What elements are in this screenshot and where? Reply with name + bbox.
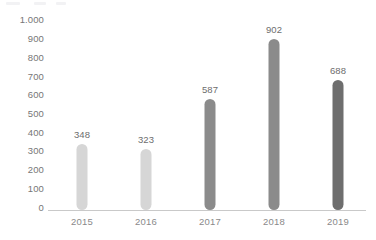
- bar-value-label: 323: [138, 134, 154, 145]
- y-tick-label: 800: [28, 53, 44, 63]
- y-tick-label: 300: [28, 146, 44, 156]
- bar[interactable]: [141, 149, 152, 210]
- plot-area: 348 2015 323 2016 587 2017 902 2018 688 …: [48, 0, 370, 240]
- y-tick-label: 400: [28, 128, 44, 138]
- y-tick-label: 200: [28, 165, 44, 175]
- category-label: 2017: [199, 216, 221, 227]
- bar[interactable]: [333, 80, 344, 210]
- category-label: 2018: [263, 216, 285, 227]
- bar-group: 902 2018: [242, 0, 306, 240]
- y-tick-label: 900: [28, 34, 44, 44]
- bar[interactable]: [269, 39, 280, 210]
- bar-group: 688 2019: [306, 0, 370, 240]
- category-label: 2016: [135, 216, 157, 227]
- bar-group: 323 2016: [114, 0, 178, 240]
- bar[interactable]: [77, 144, 88, 210]
- bar-value-label: 688: [330, 65, 346, 76]
- y-tick-label: 500: [28, 109, 44, 119]
- y-tick-label: 600: [28, 90, 44, 100]
- y-tick-label: 100: [28, 184, 44, 194]
- bar-value-label: 348: [74, 129, 90, 140]
- y-axis: 1.000 900 800 700 600 500 400 300 200 10…: [0, 0, 48, 240]
- bar-chart: 1.000 900 800 700 600 500 400 300 200 10…: [0, 0, 376, 240]
- category-label: 2019: [327, 216, 349, 227]
- y-tick-label: 700: [28, 72, 44, 82]
- y-tick-label: 0: [39, 203, 44, 213]
- category-label: 2015: [71, 216, 93, 227]
- bar-value-label: 902: [266, 24, 282, 35]
- bar-group: 587 2017: [178, 0, 242, 240]
- y-tick-label: 1.000: [20, 15, 44, 25]
- bar[interactable]: [205, 99, 216, 210]
- bar-value-label: 587: [202, 84, 218, 95]
- bar-group: 348 2015: [50, 0, 114, 240]
